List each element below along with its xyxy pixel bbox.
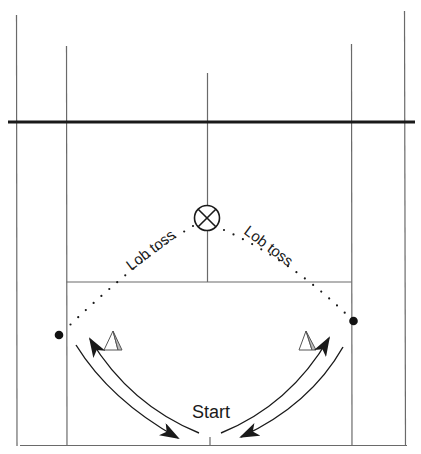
left-return-arc	[90, 339, 199, 433]
left-singles-sideline	[67, 46, 68, 446]
start-label: Start	[192, 402, 230, 422]
right-cone-icon	[299, 331, 316, 350]
lob-toss-label-right: Lob toss	[241, 222, 297, 270]
right-lob-toss-path	[224, 230, 345, 313]
circle-x-target-icon	[195, 206, 220, 231]
left-forward-arc	[76, 345, 178, 438]
right-doubles-sideline	[405, 11, 406, 446]
left-cone-icon	[104, 331, 122, 350]
right-player-dot-icon	[349, 317, 358, 326]
right-singles-sideline	[352, 44, 353, 446]
left-doubles-sideline	[17, 15, 18, 446]
right-return-arc	[241, 347, 343, 437]
tennis-court-diagram: Lob toss Lob toss Start	[0, 0, 421, 454]
left-player-dot-icon	[55, 331, 64, 340]
lob-toss-label-left: Lob toss	[123, 226, 179, 274]
